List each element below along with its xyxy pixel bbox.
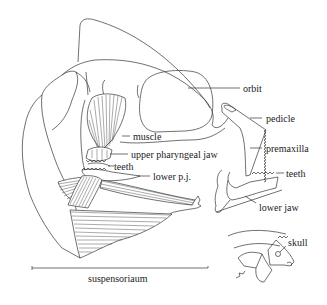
- label-upper-pharyngeal-jaw: upper pharyngeal jaw: [131, 150, 218, 160]
- label-lower-jaw: lower jaw: [259, 203, 299, 213]
- fish-inset: [228, 230, 294, 282]
- premaxilla-teeth: [264, 130, 266, 182]
- label-premaxilla: premaxilla: [266, 144, 309, 154]
- label-skull: skull: [288, 238, 307, 248]
- lower-jaw: [227, 172, 278, 200]
- label-orbit: orbit: [243, 84, 262, 94]
- label-teeth-pharyngeal: teeth: [114, 162, 133, 172]
- label-pedicle: pedicle: [266, 114, 295, 124]
- label-muscle: muscle: [133, 132, 161, 142]
- orbit-outline: [140, 70, 213, 132]
- label-teeth-oral: teeth: [286, 169, 305, 179]
- upper-pharyngeal-jaw: [86, 147, 112, 161]
- suspensorium-bracket: [32, 266, 208, 270]
- premaxilla: [221, 103, 266, 176]
- label-suspensorium: suspensoriaum: [88, 274, 147, 284]
- label-lower-pj: lower p.j.: [153, 172, 191, 182]
